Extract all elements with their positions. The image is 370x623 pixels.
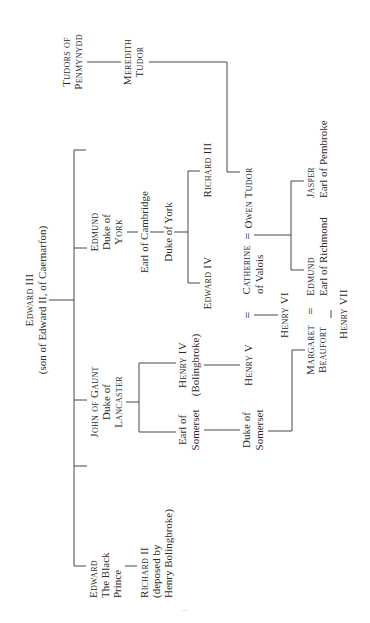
svg-text:Earl of Pembroke: Earl of Pembroke bbox=[317, 120, 329, 198]
svg-text:Somerset: Somerset bbox=[253, 410, 265, 451]
node-owen-tudor: Owen Tudor bbox=[242, 167, 254, 228]
node-henry-vii: Henry VII bbox=[337, 289, 349, 339]
svg-text:Henry Bolingbroke): Henry Bolingbroke) bbox=[162, 509, 175, 598]
node-meredith-tudor: Meredith Tudor bbox=[121, 39, 145, 85]
edward-iii-subtitle: (son of Edward II, of Caernarfon) bbox=[36, 225, 49, 374]
svg-text:Henry IV: Henry IV bbox=[176, 342, 188, 388]
svg-text:=: = bbox=[304, 307, 318, 314]
node-edmund-richmond: Edmund Earl of Richmond bbox=[304, 217, 329, 296]
node-richard-iii: Richard III bbox=[201, 142, 213, 197]
svg-text:Edmund: Edmund bbox=[304, 257, 316, 296]
node-henry-vi: Henry VI bbox=[278, 292, 290, 338]
svg-text:Lancaster: Lancaster bbox=[112, 376, 124, 428]
svg-text:Meredith: Meredith bbox=[121, 39, 133, 85]
node-earl-of-somerset: Earl of Somerset bbox=[176, 410, 201, 451]
node-duke-of-somerset: Duke of Somerset bbox=[240, 410, 265, 451]
svg-text:Owen Tudor: Owen Tudor bbox=[242, 167, 254, 228]
svg-text:Jasper: Jasper bbox=[304, 167, 316, 198]
svg-text:—: — bbox=[181, 606, 190, 614]
svg-text:Henry V: Henry V bbox=[242, 344, 254, 386]
node-margaret-beaufort: Margaret Beaufort bbox=[304, 325, 328, 375]
svg-text:Duke of York: Duke of York bbox=[162, 202, 174, 262]
node-richard-ii: Richard II (deposed by Henry Bolingbroke… bbox=[138, 509, 175, 598]
node-tudors-of-penmynydd: Tudors of Penmynydd bbox=[60, 34, 84, 89]
node-henry-iv: Henry IV (Bolingbroke) bbox=[176, 334, 202, 397]
svg-text:of Valois: of Valois bbox=[253, 255, 265, 294]
svg-text:Richard II: Richard II bbox=[138, 547, 150, 598]
svg-text:York: York bbox=[112, 219, 124, 245]
node-edward-iv: Edward IV bbox=[201, 256, 213, 309]
edward-iii-name: Edward III bbox=[23, 274, 35, 327]
svg-text:Henry VI: Henry VI bbox=[278, 292, 290, 338]
svg-text:Edward IV: Edward IV bbox=[201, 256, 213, 309]
svg-text:Earl of Richmond: Earl of Richmond bbox=[317, 217, 329, 296]
family-tree-diagram: Edward III (son of Edward II, of Caernar… bbox=[0, 0, 370, 623]
svg-text:Richard III: Richard III bbox=[201, 142, 213, 197]
svg-text:=: = bbox=[241, 311, 255, 318]
svg-text:Duke of: Duke of bbox=[240, 412, 252, 448]
node-john-of-gaunt: John of Gaunt Duke of Lancaster bbox=[88, 366, 124, 437]
node-catherine: Catherine of Valois bbox=[240, 245, 265, 294]
svg-text:Catherine: Catherine bbox=[240, 245, 252, 294]
svg-text:Duke of: Duke of bbox=[100, 384, 112, 420]
svg-text:(Bolingbroke): (Bolingbroke) bbox=[189, 334, 202, 397]
marriage-catherine-owen: = bbox=[241, 232, 255, 239]
svg-text:Edmund: Edmund bbox=[88, 213, 100, 252]
svg-text:=: = bbox=[241, 232, 255, 239]
svg-text:Edward: Edward bbox=[87, 560, 99, 598]
svg-text:Earl of Cambridge: Earl of Cambridge bbox=[138, 191, 150, 273]
svg-text:Duke of: Duke of bbox=[100, 214, 112, 250]
node-edmund-duke-of-york: Edmund Duke of York bbox=[88, 213, 124, 252]
marriage-margaret-edmund: = bbox=[304, 307, 318, 314]
svg-text:John of Gaunt: John of Gaunt bbox=[88, 366, 100, 437]
node-jasper: Jasper Earl of Pembroke bbox=[304, 120, 329, 198]
svg-text:Penmynydd: Penmynydd bbox=[72, 34, 84, 89]
svg-text:Henry VII: Henry VII bbox=[337, 289, 349, 339]
svg-text:Beaufort: Beaufort bbox=[316, 327, 328, 373]
node-earl-of-cambridge: Earl of Cambridge bbox=[138, 191, 150, 273]
marriage-henry-v-catherine: = bbox=[241, 311, 255, 318]
svg-text:Earl of: Earl of bbox=[176, 415, 188, 446]
svg-text:Somerset: Somerset bbox=[189, 410, 201, 451]
svg-text:Prince: Prince bbox=[111, 570, 123, 598]
node-black-prince: Edward The Black Prince bbox=[87, 552, 123, 598]
svg-text:Tudors of: Tudors of bbox=[60, 37, 72, 87]
node-henry-v: Henry V bbox=[242, 344, 254, 386]
node-edward-iii: Edward III (son of Edward II, of Caernar… bbox=[23, 225, 49, 374]
page-number: — bbox=[181, 606, 190, 614]
svg-text:The Black: The Black bbox=[99, 552, 111, 598]
node-duke-of-york: Duke of York bbox=[162, 202, 174, 262]
svg-text:Margaret: Margaret bbox=[304, 325, 316, 375]
svg-text:Tudor: Tudor bbox=[133, 46, 145, 77]
